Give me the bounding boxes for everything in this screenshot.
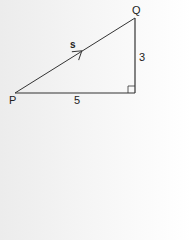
vector-label-s: s: [70, 39, 76, 50]
right-angle-marker: [128, 86, 135, 93]
arrow-head-icon: [72, 51, 83, 61]
triangle-diagram: Q P s 5 3: [0, 0, 155, 124]
vertex-label-p: P: [9, 94, 16, 106]
vector-s-line: [15, 18, 135, 93]
side-label-vertical: 3: [139, 51, 145, 63]
side-label-base: 5: [74, 94, 80, 106]
vertex-label-q: Q: [132, 4, 141, 16]
